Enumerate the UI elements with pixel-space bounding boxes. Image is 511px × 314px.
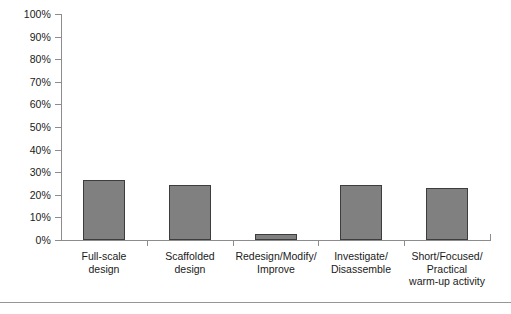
y-axis-tick-label: 50% (30, 122, 51, 133)
y-axis-tick (55, 59, 61, 60)
x-axis-category-label-line: design (147, 263, 233, 276)
x-axis-category-label: Investigate/Disassemble (318, 250, 404, 275)
y-axis-tick-label: 40% (30, 145, 51, 156)
x-axis-category-label-line: design (61, 263, 147, 276)
y-axis-tick (55, 240, 61, 241)
y-axis-tick-label: 80% (30, 54, 51, 65)
x-axis-category-label-line: Investigate/ (318, 250, 404, 263)
y-axis-tick-label: 20% (30, 190, 51, 201)
y-axis-tick (55, 217, 61, 218)
y-axis-tick-label: 0% (36, 235, 51, 246)
x-axis-category-label-line: Improve (233, 263, 319, 276)
x-axis-tick (318, 240, 319, 246)
x-axis-category-label: Redesign/Modify/Improve (233, 250, 319, 275)
y-axis-tick (55, 150, 61, 151)
y-axis-tick-label: 30% (30, 167, 51, 178)
y-axis-tick (55, 172, 61, 173)
y-axis-line (61, 14, 62, 241)
y-axis-tick-label: 10% (30, 212, 51, 223)
bar (340, 185, 382, 240)
x-axis-category-label-line: Disassemble (318, 263, 404, 276)
x-axis-category-label: Short/Focused/Practicalwarm-up activity (404, 250, 490, 288)
x-axis-line (61, 240, 491, 241)
x-axis-category-label: Scaffoldeddesign (147, 250, 233, 275)
x-axis-category-label: Full-scaledesign (61, 250, 147, 275)
x-axis-category-label-line: warm-up activity (404, 275, 490, 288)
x-axis-category-label-line: Full-scale (61, 250, 147, 263)
bar (83, 180, 125, 240)
y-axis-tick-label: 100% (24, 9, 51, 20)
bottom-divider-rule (0, 302, 511, 303)
x-axis-tick (233, 240, 234, 246)
y-axis-tick (55, 14, 61, 15)
x-axis-tick (147, 240, 148, 246)
x-axis-end-tick (490, 234, 491, 241)
x-axis-tick (404, 240, 405, 246)
y-axis-tick (55, 127, 61, 128)
y-axis-tick (55, 37, 61, 38)
y-axis-tick-label: 60% (30, 99, 51, 110)
x-axis-category-label-line: Practical (404, 263, 490, 276)
y-axis-tick (55, 195, 61, 196)
bar (426, 188, 468, 240)
x-axis-category-label-line: Short/Focused/ (404, 250, 490, 263)
y-axis-tick-label: 90% (30, 32, 51, 43)
y-axis-tick (55, 104, 61, 105)
figure: 100%90%80%70%60%50%40%30%20%10%0% Full-s… (0, 0, 511, 314)
y-axis-tick-label: 70% (30, 77, 51, 88)
y-axis-tick (55, 82, 61, 83)
x-axis-category-label-line: Redesign/Modify/ (233, 250, 319, 263)
bar (169, 185, 211, 240)
bar-chart-plot-area: 100%90%80%70%60%50%40%30%20%10%0% Full-s… (0, 0, 511, 314)
bar (255, 234, 297, 240)
x-axis-category-label-line: Scaffolded (147, 250, 233, 263)
